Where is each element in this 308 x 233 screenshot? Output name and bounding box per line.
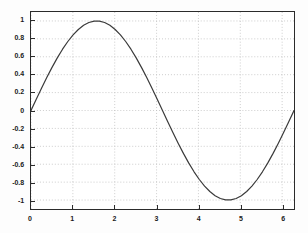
y-tick-mark bbox=[31, 92, 35, 93]
x-tick-label: 6 bbox=[281, 215, 285, 223]
y-tick-mark bbox=[31, 56, 35, 57]
x-tick-label: 2 bbox=[112, 215, 116, 223]
y-tick-label: 0.8 bbox=[0, 34, 24, 42]
chart-screenshot: 10.80.60.40.20-0.2-0.4-0.6-0.8-1 0123456 bbox=[0, 0, 308, 233]
y-tick-label: 0.6 bbox=[0, 52, 24, 60]
plot-area bbox=[30, 11, 295, 210]
y-tick-mark bbox=[31, 165, 35, 166]
x-tick-mark bbox=[72, 205, 73, 209]
y-tick-label: 0 bbox=[0, 107, 24, 115]
x-tick-label: 4 bbox=[197, 215, 201, 223]
x-tick-mark bbox=[283, 205, 284, 209]
y-tick-label: -0.8 bbox=[0, 179, 24, 187]
y-tick-mark bbox=[31, 74, 35, 75]
x-tick-label: 0 bbox=[28, 215, 32, 223]
y-tick-mark bbox=[31, 129, 35, 130]
figure-canvas: 10.80.60.40.20-0.2-0.4-0.6-0.8-1 0123456 bbox=[0, 0, 308, 233]
y-tick-label: 0.2 bbox=[0, 88, 24, 96]
y-tick-mark bbox=[31, 201, 35, 202]
x-tick-label: 5 bbox=[239, 215, 243, 223]
x-tick-mark bbox=[199, 205, 200, 209]
y-tick-label: -0.4 bbox=[0, 143, 24, 151]
y-tick-label: 0.4 bbox=[0, 70, 24, 78]
x-tick-mark bbox=[114, 205, 115, 209]
y-tick-mark bbox=[31, 111, 35, 112]
x-tick-label: 3 bbox=[155, 215, 159, 223]
y-tick-mark bbox=[31, 147, 35, 148]
y-tick-mark bbox=[31, 38, 35, 39]
x-tick-mark bbox=[157, 205, 158, 209]
x-tick-mark bbox=[30, 205, 31, 209]
y-tick-label: -0.2 bbox=[0, 125, 24, 133]
y-tick-label: 1 bbox=[0, 16, 24, 24]
x-tick-mark bbox=[241, 205, 242, 209]
y-tick-label: -0.6 bbox=[0, 161, 24, 169]
series-sin-x bbox=[31, 12, 294, 209]
x-tick-label: 1 bbox=[70, 215, 74, 223]
y-tick-mark bbox=[31, 183, 35, 184]
y-tick-label: -1 bbox=[0, 197, 24, 205]
y-tick-mark bbox=[31, 20, 35, 21]
